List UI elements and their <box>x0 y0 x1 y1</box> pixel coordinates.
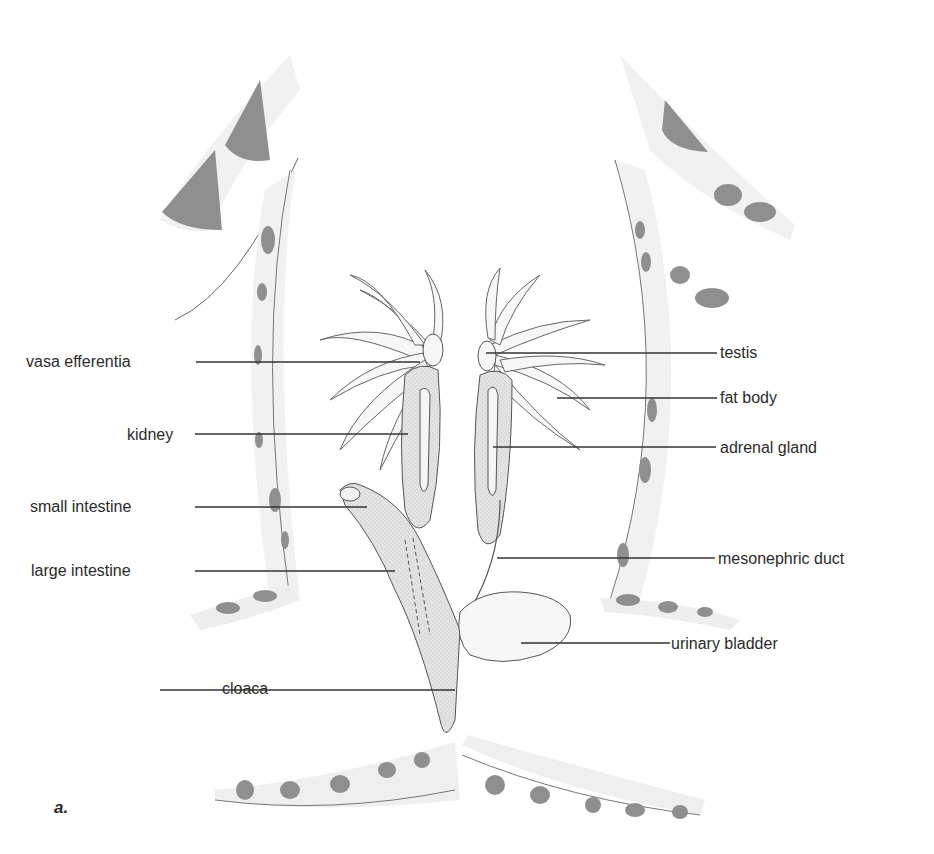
label-fat-body: fat body <box>720 389 777 407</box>
kidney-left <box>402 366 441 528</box>
testis-right <box>478 341 496 371</box>
label-mesonephric-duct: mesonephric duct <box>718 550 844 568</box>
left-body-wall <box>251 170 300 600</box>
label-large-intestine: large intestine <box>31 562 131 580</box>
label-testis: testis <box>720 344 757 362</box>
testis-left <box>423 334 443 366</box>
label-adrenal-gland: adrenal gland <box>720 439 817 457</box>
label-small-intestine: small intestine <box>30 498 131 516</box>
label-urinary-bladder: urinary bladder <box>671 635 778 653</box>
label-kidney: kidney <box>127 426 173 444</box>
label-cloaca: cloaca <box>222 680 268 698</box>
panel-label: a. <box>54 798 68 818</box>
kidney-right <box>474 371 512 544</box>
intestine <box>340 483 460 732</box>
urinary-bladder <box>459 592 571 662</box>
label-vasa-efferentia: vasa efferentia <box>26 353 131 371</box>
right-body-wall <box>610 160 671 600</box>
